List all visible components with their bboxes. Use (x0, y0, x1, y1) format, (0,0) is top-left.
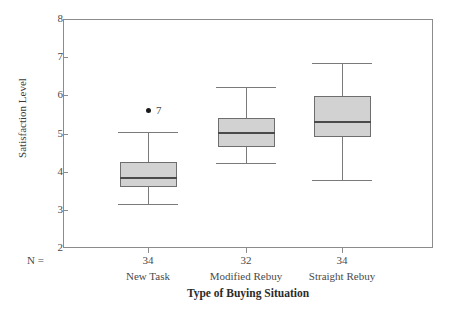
y-tick-label: 2 (47, 242, 63, 253)
n-equals-label: N = (27, 254, 44, 266)
whisker-lower-cap (216, 163, 275, 164)
y-tick-label: 4 (47, 166, 63, 177)
whisker-upper-cap (118, 132, 177, 133)
y-tick-mark (63, 134, 68, 135)
boxplot-figure: 2345678 34New Task32Modified Rebuy34Stra… (0, 0, 453, 309)
outlier-label: 7 (156, 105, 162, 116)
whisker-lower-stem (342, 137, 343, 181)
iqr-box (120, 162, 177, 187)
whisker-upper-stem (246, 87, 247, 118)
whisker-lower-stem (246, 147, 247, 163)
outlier-point (146, 108, 151, 113)
x-category-label: Straight Rebuy (287, 270, 397, 282)
y-tick-label: 8 (47, 13, 63, 24)
y-tick-mark (63, 172, 68, 173)
y-tick-label: 5 (47, 128, 63, 139)
x-count-label: 32 (206, 254, 286, 266)
whisker-upper-stem (342, 63, 343, 96)
x-category-label: New Task (93, 270, 203, 282)
whisker-upper-cap (312, 63, 371, 64)
y-axis-title: Satisfaction Level (16, 43, 28, 193)
whisker-lower-stem (148, 187, 149, 204)
y-tick-label: 7 (47, 51, 63, 62)
y-tick-label: 3 (47, 204, 63, 215)
x-count-label: 34 (302, 254, 382, 266)
whisker-lower-cap (312, 180, 371, 181)
whisker-upper-stem (148, 132, 149, 163)
x-axis-title: Type of Buying Situation (63, 287, 433, 299)
y-tick-mark (63, 57, 68, 58)
x-category-label: Modified Rebuy (191, 270, 301, 282)
iqr-box (314, 96, 371, 136)
whisker-upper-cap (216, 87, 275, 88)
median-line (120, 177, 177, 179)
median-line (218, 132, 275, 134)
y-tick-label: 6 (47, 89, 63, 100)
x-count-label: 34 (108, 254, 188, 266)
x-tick-mark (342, 248, 343, 253)
y-tick-mark (63, 210, 68, 211)
x-tick-mark (246, 248, 247, 253)
y-tick-mark (63, 95, 68, 96)
whisker-lower-cap (118, 204, 177, 205)
x-tick-mark (148, 248, 149, 253)
median-line (314, 121, 371, 123)
